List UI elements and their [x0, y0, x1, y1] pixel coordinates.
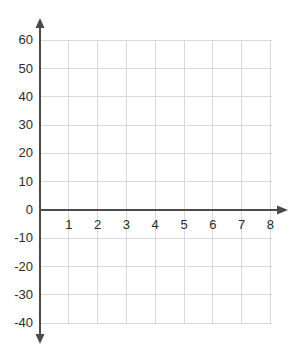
- x-tick-label-2: 2: [83, 218, 113, 231]
- x-tick-label-3: 3: [111, 218, 141, 231]
- y-tick-label--30: -30: [14, 288, 33, 301]
- x-tick-label-1: 1: [54, 218, 84, 231]
- y-tick-label-40: 40: [19, 90, 33, 103]
- y-tick-label-30: 30: [19, 118, 33, 131]
- y-axis-arrow-up: [36, 18, 45, 28]
- y-tick-label-0: 0: [26, 203, 33, 216]
- x-tick-label-4: 4: [140, 218, 170, 231]
- axis-lines: [40, 24, 281, 338]
- y-tick-label-20: 20: [19, 146, 33, 159]
- grid-canvas: [0, 0, 300, 362]
- x-axis-arrow-right: [277, 206, 288, 215]
- horizontal-gridlines: [40, 40, 272, 323]
- x-tick-label-8: 8: [255, 218, 285, 231]
- y-tick-label-60: 60: [19, 33, 33, 46]
- x-tick-label-7: 7: [227, 218, 257, 231]
- y-tick-label--20: -20: [14, 260, 33, 273]
- y-tick-label--40: -40: [14, 316, 33, 329]
- y-tick-label--10: -10: [14, 231, 33, 244]
- x-tick-label-6: 6: [198, 218, 228, 231]
- y-tick-label-10: 10: [19, 175, 33, 188]
- x-tick-label-5: 5: [169, 218, 199, 231]
- y-axis-arrow-down: [36, 334, 45, 344]
- coordinate-grid-plot: 6050403020100-10-20-30-40 12345678: [0, 0, 300, 362]
- y-tick-label-50: 50: [19, 62, 33, 75]
